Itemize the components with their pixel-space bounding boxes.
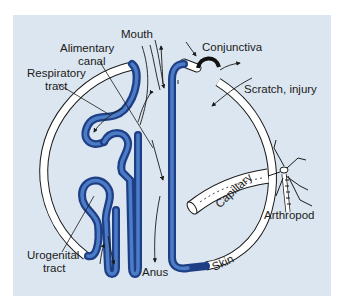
label-urogenital-line2: tract — [43, 262, 65, 275]
label-mouth: Mouth — [121, 28, 153, 41]
label-alimentary-line1: Alimentary — [60, 42, 114, 55]
label-urogenital-line1: Urogenital — [27, 249, 79, 262]
label-arthropod: Arthropod — [264, 209, 315, 222]
label-respiratory-line2: tract — [45, 80, 67, 93]
label-anus: Anus — [142, 266, 168, 279]
label-scratch-injury: Scratch, injury — [244, 83, 317, 96]
urogenital-tract-tube — [82, 181, 116, 274]
central-body-wall — [172, 64, 206, 269]
label-respiratory-line1: Respiratory — [27, 67, 86, 80]
label-conjunctiva: Conjunctiva — [202, 41, 262, 54]
